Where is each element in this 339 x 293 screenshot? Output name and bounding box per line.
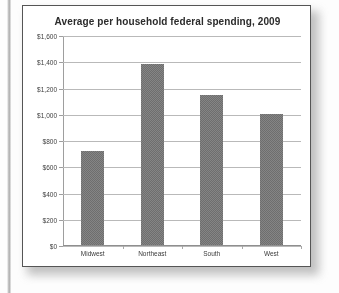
x-axis-tick [182,246,183,249]
y-axis-tick-label: $1,400 [37,59,57,66]
bar-south [200,95,223,245]
gridline [63,62,301,63]
x-axis-label-west: West [264,250,279,257]
y-axis-tick [59,167,63,168]
plot-area: $0$200$400$600$800$1,000$1,200$1,400$1,6… [63,36,301,246]
y-axis-tick-label: $0 [50,243,57,250]
bar-midwest [81,151,104,246]
y-axis-tick-label: $400 [43,190,57,197]
y-axis-tick [59,36,63,37]
y-axis-tick [59,194,63,195]
y-axis-tick [59,220,63,221]
y-axis-tick-label: $800 [43,138,57,145]
chart-card: Average per household federal spending, … [22,5,311,267]
gridline [63,89,301,90]
bar-northeast [141,64,164,245]
y-axis-tick-label: $600 [43,164,57,171]
y-axis-tick-label: $1,200 [37,85,57,92]
scan-gutter-shadow [7,0,11,293]
y-axis-tick [59,89,63,90]
y-axis-tick [59,62,63,63]
x-axis-label-northeast: Northeast [138,250,166,257]
x-axis-label-south: South [203,250,220,257]
y-axis-tick-label: $1,600 [37,33,57,40]
x-axis-tick [301,246,302,249]
bar-west [260,114,283,245]
y-axis-tick-label: $200 [43,216,57,223]
gridline [63,36,301,37]
y-axis-tick [59,141,63,142]
x-axis-tick [242,246,243,249]
x-axis-label-midwest: Midwest [81,250,105,257]
x-axis-tick [123,246,124,249]
chart-title: Average per household federal spending, … [23,16,312,27]
y-axis-tick [59,115,63,116]
y-axis-tick-label: $1,000 [37,111,57,118]
y-axis-tick [59,246,63,247]
